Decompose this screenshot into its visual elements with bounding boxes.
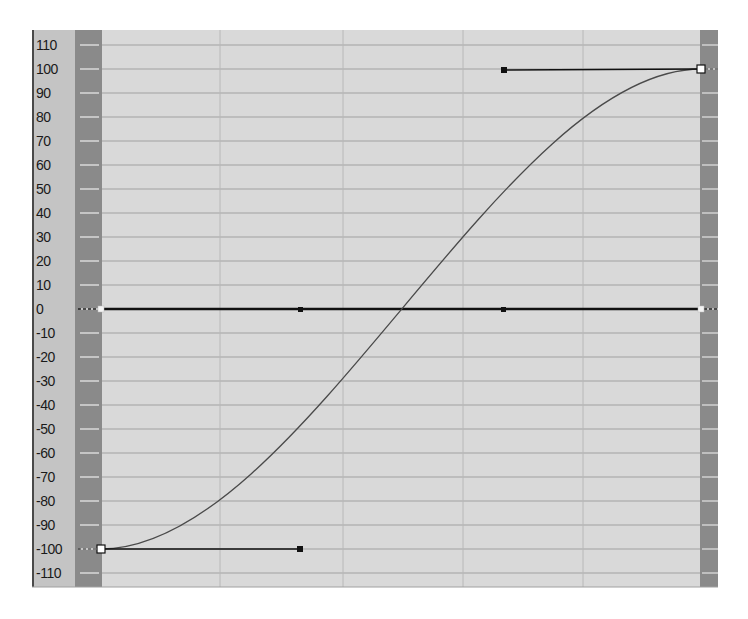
ruler-tick-label: -110 xyxy=(36,566,61,580)
ruler-tick-label: -10 xyxy=(36,326,55,340)
ruler-tick-label: 30 xyxy=(36,230,51,244)
ruler-tick-label: -80 xyxy=(36,494,55,508)
ruler-tick-label: 70 xyxy=(36,134,51,148)
ruler-tick-label: 90 xyxy=(36,86,51,100)
tangent-handle[interactable] xyxy=(501,67,507,73)
ruler-tick-label: 20 xyxy=(36,254,51,268)
ruler-tick-label: -70 xyxy=(36,470,55,484)
ruler-tick-label: 40 xyxy=(36,206,51,220)
ruler-tick-label: 0 xyxy=(36,302,43,316)
keyframe-end[interactable] xyxy=(697,65,705,73)
ruler-tick-label: -40 xyxy=(36,398,55,412)
tangent-line xyxy=(504,69,701,70)
ruler-tick-label: -30 xyxy=(36,374,55,388)
tangent-handle[interactable] xyxy=(501,307,506,312)
ruler-tick-label: 80 xyxy=(36,110,51,124)
keyframe-start[interactable] xyxy=(97,545,105,553)
ruler-tick-label: -90 xyxy=(36,518,55,532)
tangent-handle[interactable] xyxy=(298,307,303,312)
keyframe-end[interactable] xyxy=(698,306,704,312)
keyframe-start[interactable] xyxy=(98,306,104,312)
ruler-tick-label: -50 xyxy=(36,422,55,436)
ruler-tick-label: -60 xyxy=(36,446,55,460)
curve-editor-canvas[interactable] xyxy=(0,0,748,619)
ruler-tick-label: 110 xyxy=(36,38,57,52)
ruler-tick-label: -100 xyxy=(36,542,62,556)
ruler-tick-label: 50 xyxy=(36,182,51,196)
ruler-tick-label: 10 xyxy=(36,278,51,292)
ruler-tick-label: -20 xyxy=(36,350,55,364)
tangent-handle[interactable] xyxy=(297,546,303,552)
ruler-tick-label: 60 xyxy=(36,158,51,172)
ruler-tick-label: 100 xyxy=(36,62,58,76)
